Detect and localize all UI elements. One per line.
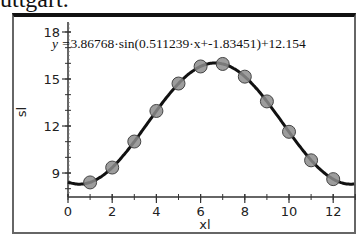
x-axis-label: xl: [199, 217, 210, 232]
equation-lhs: y =: [52, 36, 70, 51]
x-tick-label: 2: [108, 204, 116, 219]
data-point: [194, 60, 207, 73]
x-tick-label: 8: [241, 204, 249, 219]
x-tick-label: 0: [64, 204, 72, 219]
x-tick-label: 10: [281, 204, 298, 219]
data-point: [305, 154, 318, 167]
data-point: [283, 125, 296, 138]
equation-rhs: 3.86768·sin(0.511239·x+-1.83451)+12.154: [70, 36, 305, 51]
data-point: [260, 95, 273, 108]
x-tick-label: 4: [152, 204, 160, 219]
y-tick-label: 9: [52, 166, 60, 181]
data-point: [216, 57, 229, 70]
data-points: [84, 57, 340, 188]
data-point: [327, 173, 340, 186]
regression-equation: y =3.86768·sin(0.511239·x+-1.83451)+12.1…: [52, 36, 306, 52]
data-point: [84, 176, 97, 189]
data-point: [128, 135, 141, 148]
y-axis-label: sl: [14, 107, 29, 117]
data-point: [106, 161, 119, 174]
data-point: [238, 70, 251, 83]
data-point: [172, 77, 185, 90]
x-tick-label: 12: [325, 204, 342, 219]
y-tick-label: 15: [43, 72, 60, 87]
data-point: [150, 104, 163, 117]
y-tick-label: 12: [43, 119, 60, 134]
